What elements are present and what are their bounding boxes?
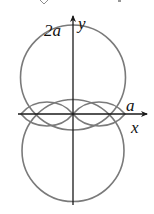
label-x-axis: x [130,118,139,137]
label-2a: 2a [44,21,61,40]
label-y-axis: y [76,14,86,33]
polar-curve-diagram: 2a y a x [0,0,154,214]
label-a: a [126,96,135,115]
top-text-fragment [40,0,121,4]
